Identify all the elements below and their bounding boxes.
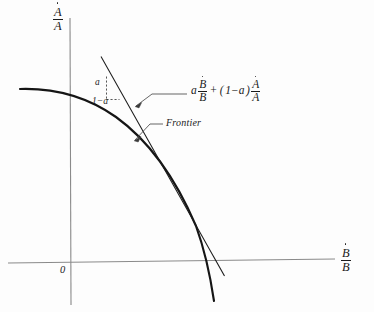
equation-leader-arrowhead <box>135 103 141 108</box>
y-axis-label-denominator: A <box>53 20 63 33</box>
equation-coefficient-a: a <box>191 85 197 97</box>
isovalue-equation-label: a B B + ( 1−a ) A A <box>191 79 260 103</box>
equation-term1-numerator: B <box>198 79 207 92</box>
equation-term2-fraction: A A <box>251 79 260 103</box>
x-axis-label-denominator: B <box>341 261 351 274</box>
slope-horizontal-leg-label: 1−a <box>92 97 108 107</box>
diagram-canvas <box>0 0 374 312</box>
origin-label: 0 <box>60 265 65 276</box>
growth-frontier-figure: A A B B 0 a 1−a Frontier a B B + ( 1−a )… <box>0 0 374 312</box>
equation-plus-operator: + <box>209 85 219 97</box>
equation-open-paren: ( <box>220 85 224 97</box>
equation-close-paren: ) <box>246 85 250 97</box>
equation-term2-denominator: A <box>251 92 260 104</box>
y-axis-label-fraction: A A <box>53 6 63 33</box>
equation-term2-numerator: A <box>251 79 260 92</box>
x-axis-label-fraction: B B <box>341 247 351 274</box>
x-axis-line <box>8 259 335 263</box>
x-axis-label-numerator: B <box>341 247 351 261</box>
equation-term1-fraction: B B <box>198 79 207 103</box>
y-axis-label-numerator: A <box>53 6 63 20</box>
equation-leader-line <box>136 94 187 106</box>
slope-vertical-leg-label: a <box>95 78 100 88</box>
equation-term1-denominator: B <box>198 92 207 104</box>
equation-coefficient-one-minus-a: 1−a <box>225 85 244 97</box>
x-axis-label: B B <box>341 247 351 274</box>
frontier-annotation-label: Frontier <box>166 118 201 128</box>
y-axis-label: A A <box>53 6 63 33</box>
